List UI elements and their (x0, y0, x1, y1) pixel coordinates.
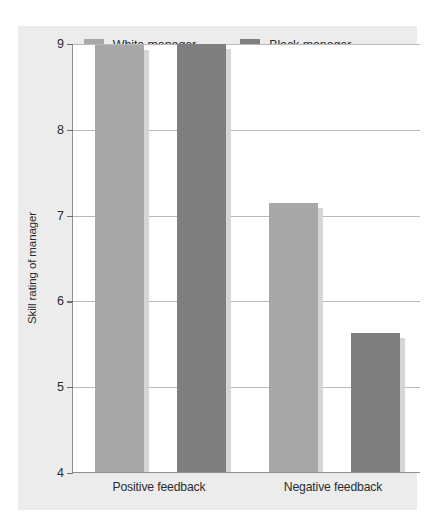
y-axis-title: Skill rating of manager (26, 212, 38, 324)
x-axis-label-positive-feedback: Positive feedback (113, 480, 206, 494)
y-tick-mark-5 (67, 387, 73, 388)
y-tick-label-6: 6 (57, 294, 64, 308)
y-tick-mark-9 (67, 44, 73, 45)
x-axis-label-negative-feedback: Negative feedback (284, 480, 382, 494)
y-tick-mark-6 (67, 301, 73, 302)
bar-positive-feedback-black-manager[interactable] (177, 44, 226, 472)
y-tick-mark-8 (67, 130, 73, 131)
bar-negative-feedback-white-manager[interactable] (269, 203, 318, 472)
bar-negative-feedback-black-manager[interactable] (351, 333, 400, 472)
y-tick-label-7: 7 (57, 209, 64, 223)
y-tick-label-9: 9 (57, 37, 64, 51)
y-tick-label-5: 5 (57, 380, 64, 394)
chart-figure-panel: White manager Black manager Skill rating… (18, 26, 417, 510)
y-tick-mark-7 (67, 216, 73, 217)
y-tick-label-4: 4 (57, 466, 64, 480)
y-tick-label-8: 8 (57, 123, 64, 137)
y-tick-mark-4 (67, 473, 73, 474)
plot-area: 987654 (72, 44, 420, 473)
bar-positive-feedback-white-manager[interactable] (95, 45, 144, 472)
